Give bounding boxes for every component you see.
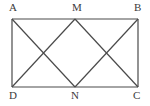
geometry-figure: A M B D N C: [0, 0, 150, 106]
vertex-label-M: M: [72, 2, 82, 13]
vertex-label-D: D: [9, 90, 17, 101]
vertex-label-N: N: [71, 90, 79, 101]
vertex-label-A: A: [9, 2, 17, 13]
vertex-label-B: B: [134, 2, 141, 13]
vertex-label-C: C: [133, 90, 140, 101]
